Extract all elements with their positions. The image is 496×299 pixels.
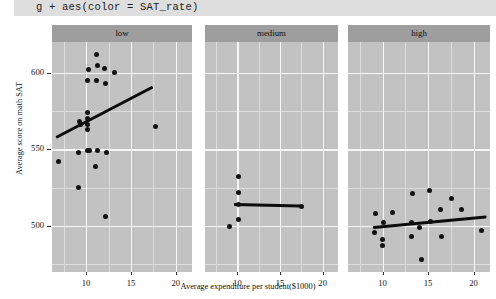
data-point: [95, 63, 100, 68]
data-point: [94, 78, 99, 83]
x-axis-tick-label: 10: [372, 278, 394, 288]
data-point: [438, 207, 443, 212]
data-point: [380, 237, 385, 242]
x-axis-tick-mark: [280, 272, 281, 275]
gridline-minor-y: [205, 188, 338, 189]
data-point: [372, 230, 377, 235]
gridline-major-x: [237, 42, 238, 272]
gridline-minor-x: [405, 42, 406, 272]
gridline-minor-x: [153, 42, 154, 272]
data-point: [449, 196, 454, 201]
gridline-minor-y: [205, 264, 338, 265]
data-point: [236, 217, 241, 222]
x-axis-tick-mark: [383, 272, 384, 275]
data-point: [85, 127, 90, 132]
data-point: [236, 190, 241, 195]
gridline-major-y: [205, 149, 338, 150]
data-point: [390, 210, 395, 215]
data-point: [419, 257, 424, 262]
gridline-minor-x: [360, 42, 361, 272]
x-axis-tick-mark: [237, 272, 238, 275]
code-text: g + aes(color = SAT_rate): [36, 1, 199, 13]
data-point: [380, 243, 385, 248]
y-axis-tick-mark: [47, 149, 51, 150]
gridline-minor-x: [301, 42, 302, 272]
facet-strip-label: high: [348, 25, 490, 42]
data-point: [409, 234, 414, 239]
x-axis-tick-label: 10: [75, 278, 97, 288]
data-point: [299, 204, 304, 209]
facet-panel-medium: medium: [205, 25, 338, 272]
x-axis-tick-mark: [131, 272, 132, 275]
gridline-minor-x: [451, 42, 452, 272]
data-point: [56, 159, 61, 164]
y-axis-tick-label: 600: [10, 67, 44, 77]
gridline-major-y: [52, 73, 192, 74]
data-point: [479, 228, 484, 233]
x-axis-tick-label: 15: [269, 278, 291, 288]
x-axis-tick-mark: [86, 272, 87, 275]
gridline-major-x: [131, 42, 132, 272]
gridline-minor-x: [259, 42, 260, 272]
data-point: [427, 188, 432, 193]
plot-panel-medium: [205, 42, 338, 272]
data-point: [410, 191, 415, 196]
data-point: [78, 122, 83, 127]
gridline-minor-y: [348, 188, 490, 189]
gridline-major-x: [428, 42, 429, 272]
x-axis-tick-mark: [474, 272, 475, 275]
x-axis-tick-label: 20: [463, 278, 485, 288]
x-axis-tick-label: 20: [312, 278, 334, 288]
data-point: [95, 148, 100, 153]
x-axis-tick-label: 15: [120, 278, 142, 288]
data-point: [112, 70, 117, 75]
data-point: [87, 148, 92, 153]
data-point: [153, 124, 158, 129]
y-axis-tick-mark: [47, 226, 51, 227]
y-axis-tick-label: 550: [10, 143, 44, 153]
x-axis-tick-label: 20: [165, 278, 187, 288]
facet-strip-label: low: [52, 25, 192, 42]
data-point: [373, 211, 378, 216]
plot-panel-high: [348, 42, 490, 272]
x-axis-tick-label: 15: [417, 278, 439, 288]
gridline-minor-y: [52, 188, 192, 189]
x-axis-tick-mark: [323, 272, 324, 275]
data-point: [236, 202, 241, 207]
gridline-minor-x: [64, 42, 65, 272]
facet-panel-high: high: [348, 25, 490, 272]
gridline-major-x: [176, 42, 177, 272]
gridline-major-x: [323, 42, 324, 272]
data-point: [93, 164, 98, 169]
facet-strip-label: medium: [205, 25, 338, 42]
data-point: [76, 150, 81, 155]
gridline-minor-y: [348, 111, 490, 112]
data-point: [439, 234, 444, 239]
data-point: [76, 185, 81, 190]
data-point: [227, 224, 232, 229]
data-point: [417, 225, 422, 230]
gridline-minor-y: [348, 264, 490, 265]
y-axis-tick-label: 500: [10, 220, 44, 230]
gridline-major-y: [205, 73, 338, 74]
gridline-minor-x: [216, 42, 217, 272]
facet-scatter-plot: Average score on math SAT Average expend…: [0, 20, 496, 299]
gridline-major-x: [474, 42, 475, 272]
x-axis-tick-mark: [176, 272, 177, 275]
gridline-minor-y: [52, 111, 192, 112]
data-point: [85, 78, 90, 83]
data-point: [459, 207, 464, 212]
x-axis-tick-mark: [428, 272, 429, 275]
gridline-major-y: [348, 149, 490, 150]
data-point: [94, 52, 99, 57]
gridline-major-x: [280, 42, 281, 272]
plot-panel-low: [52, 42, 192, 272]
gridline-minor-y: [52, 264, 192, 265]
gridline-minor-x: [109, 42, 110, 272]
gridline-minor-y: [205, 111, 338, 112]
y-axis-tick-mark: [47, 73, 51, 74]
gridline-major-y: [52, 226, 192, 227]
data-point: [102, 66, 107, 71]
data-point: [236, 174, 241, 179]
data-point: [85, 110, 90, 115]
